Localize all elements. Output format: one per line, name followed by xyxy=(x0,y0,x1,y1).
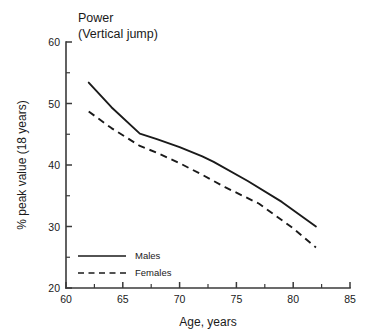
data-series-group xyxy=(89,83,316,248)
legend-label-females: Females xyxy=(135,267,172,278)
series-line-males xyxy=(89,83,316,227)
x-tick-label: 85 xyxy=(344,293,356,305)
chart-figure: Power (Vertical jump) 2030405060 6065707… xyxy=(0,0,369,336)
x-axis-title: Age, years xyxy=(179,315,236,329)
x-tick-label: 65 xyxy=(117,293,129,305)
y-tick-label: 20 xyxy=(48,282,60,294)
axes xyxy=(66,42,350,288)
y-axis-title: % peak value (18 years) xyxy=(15,100,29,229)
x-tick-label: 75 xyxy=(231,293,243,305)
y-tick-label: 60 xyxy=(48,36,60,48)
chart-canvas: Power (Vertical jump) 2030405060 6065707… xyxy=(0,0,369,336)
y-tick-label: 50 xyxy=(48,98,60,110)
legend-label-males: Males xyxy=(135,250,161,261)
chart-title: Power xyxy=(78,11,113,25)
series-line-females xyxy=(89,112,316,248)
y-axis-ticks: 2030405060 xyxy=(48,36,72,294)
y-tick-label: 40 xyxy=(48,159,60,171)
chart-title-group: Power (Vertical jump) xyxy=(78,11,158,41)
x-tick-label: 80 xyxy=(287,293,299,305)
x-tick-label: 60 xyxy=(60,293,72,305)
y-tick-label: 30 xyxy=(48,221,60,233)
x-axis-ticks: 606570758085 xyxy=(60,282,356,305)
chart-subtitle: (Vertical jump) xyxy=(78,27,158,41)
x-tick-label: 70 xyxy=(174,293,186,305)
chart-legend: Males Females xyxy=(78,250,172,278)
